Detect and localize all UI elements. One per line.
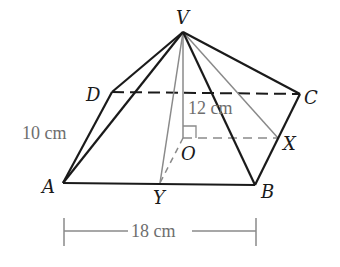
label-A: A [40, 176, 55, 197]
edge-DA [63, 92, 112, 183]
edge-VA [63, 32, 183, 183]
label-V: V [176, 7, 191, 28]
slant-VX [183, 32, 278, 138]
right-angle-marker [183, 126, 196, 138]
label-D: D [85, 84, 101, 105]
edge-VC [183, 32, 300, 94]
edge-DC-hidden [112, 92, 300, 94]
edge-VD [112, 32, 183, 92]
width-measurement: 10 cm [22, 123, 67, 143]
label-C: C [304, 87, 318, 108]
label-B: B [260, 181, 274, 202]
label-Y: Y [153, 187, 167, 208]
length-measurement: 18 cm [131, 221, 176, 241]
label-O: O [181, 143, 196, 164]
edge-AB [63, 183, 255, 185]
height-measurement: 12 cm [188, 98, 233, 118]
pyramid-diagram: V D C X O A B Y 12 cm 10 cm 18 cm [0, 0, 340, 267]
label-X: X [281, 133, 297, 154]
